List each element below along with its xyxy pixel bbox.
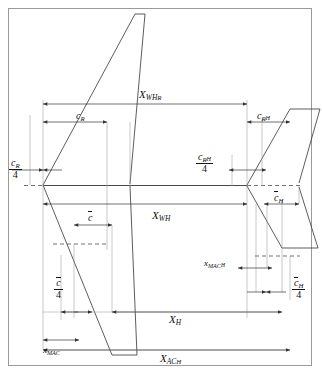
wing-planform bbox=[43, 14, 145, 355]
label-cbar-over-4: c4 bbox=[54, 278, 63, 300]
label-XACH: XACH bbox=[160, 352, 181, 366]
tail-planform bbox=[247, 109, 320, 248]
label-cR-over-4: cR4 bbox=[9, 158, 22, 181]
label-cR: cR bbox=[76, 110, 85, 122]
label-xMACH: xMACH bbox=[204, 258, 225, 269]
label-XH: XH bbox=[169, 313, 181, 327]
label-cbar: c bbox=[88, 212, 92, 223]
label-cRH-over-4: cRH4 bbox=[196, 152, 213, 175]
diagram-canvas: cR cR4 XWHR XWH cRH cRH4 c c4 cH cH4 xMA… bbox=[0, 0, 322, 376]
label-XWH: XWH bbox=[152, 209, 170, 223]
label-cRH: cRH bbox=[257, 110, 270, 122]
diagram-vector-layer bbox=[0, 0, 322, 376]
label-cbarH-over-4: cH4 bbox=[292, 278, 305, 301]
extension-lines bbox=[30, 100, 299, 350]
label-cbarH: cH bbox=[274, 192, 283, 204]
label-xMAC: xMAC bbox=[43, 345, 60, 356]
label-XWHR: XWHR bbox=[139, 88, 162, 102]
